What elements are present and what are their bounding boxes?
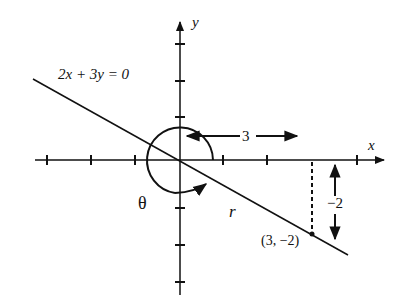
y-axis-label: y (190, 14, 199, 30)
radius-label: r (229, 202, 236, 221)
equation-line (33, 79, 348, 255)
x-axis-label: x (367, 137, 375, 153)
coordinate-diagram: 2x + 3y = 0 y x 3 −2 θ r (3, −2) (0, 0, 399, 305)
point-marker (310, 232, 315, 237)
vertical-distance-label: −2 (327, 195, 343, 211)
horizontal-distance-label: 3 (242, 128, 250, 144)
point-label: (3, −2) (261, 233, 300, 249)
angle-label: θ (138, 193, 147, 213)
x-axis (35, 155, 384, 165)
equation-label: 2x + 3y = 0 (58, 66, 130, 82)
